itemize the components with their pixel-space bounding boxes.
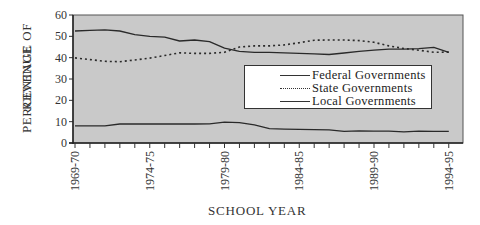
- x-tick-label: 1969-70: [68, 151, 82, 191]
- legend-item-local: Local Governments: [245, 95, 431, 108]
- y-tick-label: 0: [61, 136, 67, 150]
- y-tick-label: 20: [55, 93, 67, 107]
- x-tick-label: 1994-95: [442, 151, 456, 191]
- x-axis-title: SCHOOL YEAR: [208, 203, 306, 219]
- x-tick-label: 1974-75: [143, 151, 157, 191]
- legend-solid-line-icon: [280, 101, 310, 102]
- y-axis-title-line-2: REVENUE: [19, 46, 35, 110]
- y-tick-label: 60: [55, 8, 67, 22]
- legend: Federal Governments State Governments Lo…: [244, 65, 432, 109]
- legend-label: Local Governments: [312, 94, 416, 109]
- x-tick-label: 1989-90: [367, 151, 381, 191]
- y-tick-label: 30: [55, 72, 67, 86]
- legend-dotted-line-icon: [280, 88, 310, 89]
- x-tick-label: 1984-85: [292, 151, 306, 191]
- y-tick-label: 10: [55, 115, 67, 129]
- x-tick-label: 1979-80: [218, 151, 232, 191]
- legend-solid-line-icon: [280, 75, 310, 76]
- y-axis-title: PERCENTAGE OF REVENUE: [2, 30, 52, 130]
- y-tick-label: 50: [55, 29, 67, 43]
- y-tick-label: 40: [55, 51, 67, 65]
- line-chart: 01020304050601969-701974-751979-801984-8…: [0, 0, 480, 225]
